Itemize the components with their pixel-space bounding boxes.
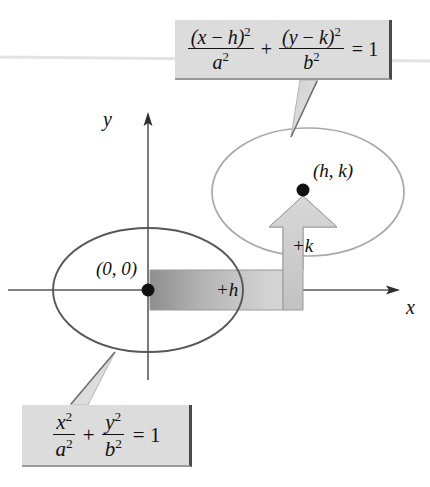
t2-den-var: b	[303, 51, 313, 73]
center-hk-point	[297, 184, 310, 197]
s2-exp: 2	[115, 409, 122, 424]
s2-den-var: b	[105, 437, 116, 461]
y-axis-label: y	[103, 108, 112, 131]
standard-term-2: y2 b2	[102, 410, 125, 461]
origin-point	[142, 284, 155, 297]
standard-equation: x2 a2 + y2 b2 = 1	[51, 410, 161, 461]
standard-equals: = 1	[133, 423, 161, 448]
t2-param: k	[319, 26, 328, 48]
t1-exp: 2	[244, 25, 250, 39]
horizontal-shift-label: +h	[216, 279, 238, 301]
translated-term-1: (x − h)2 a2	[188, 26, 254, 72]
t1-den-exp: 2	[223, 50, 229, 64]
translated-equals: = 1	[352, 38, 378, 61]
standard-term-1: x2 a2	[53, 410, 76, 461]
t1-open: (	[191, 26, 198, 48]
t2-open: (	[282, 26, 289, 48]
center-hk-point-label: (h, k)	[313, 160, 353, 182]
standard-plus-sign: +	[83, 423, 95, 448]
s1-exp: 2	[65, 409, 72, 424]
t1-minus: −	[206, 26, 227, 48]
t1-den-var: a	[213, 51, 223, 73]
translated-equation: (x − h)2 a2 + (y − k)2 b2 = 1	[186, 26, 378, 72]
t1-param: h	[228, 26, 238, 48]
s1-den-var: a	[56, 437, 67, 461]
t2-exp: 2	[334, 25, 340, 39]
translated-term-2: (y − k)2 b2	[279, 26, 344, 72]
s2-var: y	[105, 410, 114, 434]
s2-den-exp: 2	[115, 436, 122, 451]
t2-den-exp: 2	[313, 50, 319, 64]
translated-plus-sign: +	[261, 38, 272, 61]
vertical-shift-label: +k	[292, 235, 313, 257]
origin-point-label: (0, 0)	[96, 258, 137, 280]
t2-minus: −	[298, 26, 319, 48]
x-axis-label: x	[406, 296, 415, 319]
translated-equation-box: (x − h)2 a2 + (y − k)2 b2 = 1	[175, 20, 392, 80]
t2-var: y	[289, 26, 298, 48]
standard-equation-box: x2 a2 + y2 b2 = 1	[22, 405, 192, 467]
diagram-canvas: y x (0, 0) (h, k) +h +k (x − h)2 a2 + (y…	[0, 0, 430, 487]
s1-den-exp: 2	[66, 436, 73, 451]
